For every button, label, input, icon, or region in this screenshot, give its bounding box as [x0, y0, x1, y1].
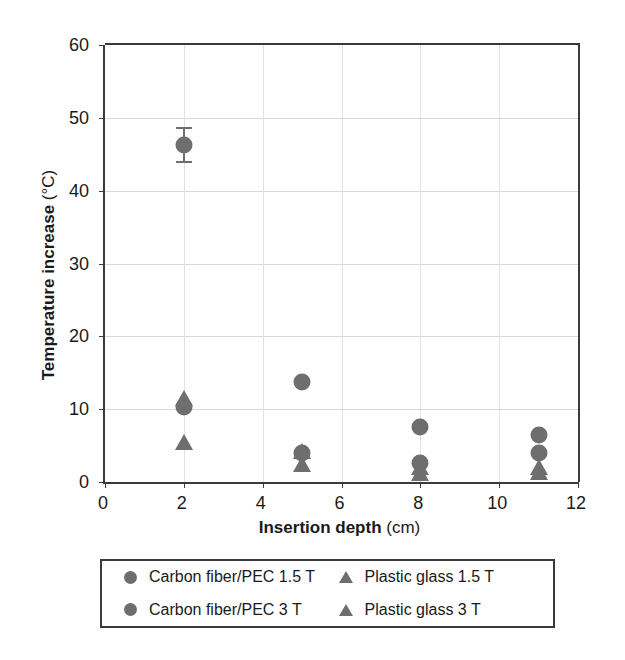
y-axis-tick: [99, 191, 105, 192]
legend-swatch-shape: [124, 571, 137, 584]
y-axis-tick: [99, 118, 105, 119]
x-axis-tick-label: 2: [177, 494, 187, 512]
x-axis-tick: [499, 482, 500, 488]
y-axis-tick-label: 10: [45, 400, 89, 418]
x-axis-tick-label: 0: [98, 494, 108, 512]
legend-item[interactable]: Plastic glass 1.5 T: [328, 569, 554, 585]
y-axis-tick: [99, 482, 105, 483]
legend-swatch-shape: [339, 571, 353, 583]
data-point-triangle: [175, 390, 193, 406]
x-axis-title-units: (cm): [386, 518, 420, 537]
legend-item-label: Carbon fiber/PEC 1.5 T: [149, 569, 315, 585]
x-axis-tick-label: 8: [413, 494, 423, 512]
legend-grid: Carbon fiber/PEC 1.5 TPlastic glass 1.5 …: [102, 561, 553, 626]
y-axis-tick: [99, 336, 105, 337]
y-axis-tick-label: 40: [45, 182, 89, 200]
y-axis-tick-label: 50: [45, 109, 89, 127]
legend-swatch-shape: [339, 604, 353, 616]
legend-circle-icon: [120, 603, 140, 616]
legend-circle-icon: [120, 571, 140, 584]
legend-item[interactable]: Carbon fiber/PEC 1.5 T: [102, 569, 328, 585]
data-point-triangle: [175, 434, 193, 450]
data-point-circle: [175, 136, 192, 153]
error-bar-cap: [176, 127, 192, 129]
error-bar-cap: [176, 161, 192, 163]
y-axis-tick-label: 30: [45, 255, 89, 273]
gridline-vertical: [184, 45, 185, 482]
y-axis-tick: [99, 45, 105, 46]
data-point-triangle: [530, 459, 548, 475]
x-axis-title-bold: Insertion depth: [259, 518, 382, 537]
plot-area: [103, 45, 578, 484]
x-axis-tick-label: 6: [334, 494, 344, 512]
y-axis-tick-label: 20: [45, 327, 89, 345]
data-point-circle: [412, 418, 429, 435]
x-axis-tick: [184, 482, 185, 488]
data-point-triangle: [293, 443, 311, 459]
data-point-triangle: [411, 459, 429, 475]
legend-item[interactable]: Plastic glass 3 T: [328, 602, 554, 618]
x-axis-tick: [420, 482, 421, 488]
x-axis-tick: [105, 482, 106, 488]
legend-triangle-icon: [336, 604, 356, 616]
x-axis-tick-label: 4: [256, 494, 266, 512]
x-axis-tick-label: 12: [566, 494, 586, 512]
x-axis-tick: [342, 482, 343, 488]
legend-item-label: Carbon fiber/PEC 3 T: [149, 602, 302, 618]
gridline-vertical: [499, 45, 500, 482]
y-axis-title-bold: Temperature increase: [39, 205, 58, 380]
y-axis-tick-label: 0: [45, 473, 89, 491]
legend-item-label: Plastic glass 1.5 T: [365, 569, 495, 585]
y-axis-tick: [99, 409, 105, 410]
gridline-vertical: [342, 45, 343, 482]
data-point-circle: [530, 426, 547, 443]
gridline-vertical: [263, 45, 264, 482]
x-axis-tick: [578, 482, 579, 488]
x-axis-tick: [263, 482, 264, 488]
x-axis-tick-label: 10: [487, 494, 507, 512]
plot-inner: [105, 45, 578, 482]
x-axis-title: Insertion depth (cm): [103, 519, 576, 536]
legend-triangle-icon: [336, 571, 356, 583]
legend-item[interactable]: Carbon fiber/PEC 3 T: [102, 602, 328, 618]
legend-item-label: Plastic glass 3 T: [365, 602, 481, 618]
gridline-vertical: [420, 45, 421, 482]
plot-frame-right: [578, 43, 580, 482]
legend-swatch-shape: [124, 603, 137, 616]
data-point-circle: [294, 374, 311, 391]
legend-box: Carbon fiber/PEC 1.5 TPlastic glass 1.5 …: [100, 559, 555, 628]
y-axis-tick: [99, 264, 105, 265]
y-axis-tick-label: 60: [45, 36, 89, 54]
scatter-chart-figure: Temperature increase (°C) Insertion dept…: [0, 0, 625, 660]
